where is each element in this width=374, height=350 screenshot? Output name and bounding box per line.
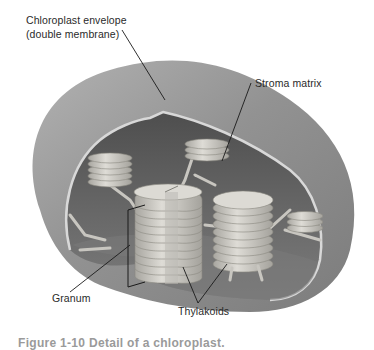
label-envelope-line1: Chloroplast envelope [26, 14, 127, 27]
figure-caption: Figure 1-10 Detail of a chloroplast. [18, 336, 225, 350]
label-granum: Granum [52, 292, 91, 305]
granum-cutaway [134, 184, 202, 284]
granum-back-left [88, 153, 132, 187]
label-stroma-matrix: Stroma matrix [255, 77, 322, 90]
label-envelope-line2: (double membrane) [26, 28, 119, 41]
granum-back-center [185, 139, 229, 161]
label-thylakoids: Thylakoids [178, 305, 229, 318]
granum-intact [213, 191, 273, 280]
granum-back-right [287, 212, 323, 233]
